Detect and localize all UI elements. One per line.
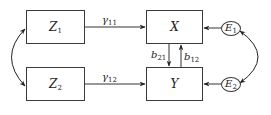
node-y: Y: [146, 67, 203, 101]
covariance-e1-e2: [240, 31, 258, 83]
node-x-label: X: [170, 20, 179, 34]
node-z2-label: Z2: [49, 77, 62, 92]
node-e2-label: E2: [225, 78, 237, 91]
node-y-label: Y: [171, 77, 179, 91]
label-gamma-12: γ12: [102, 72, 117, 84]
node-z2: Z2: [26, 67, 85, 101]
node-z1-label: Z1: [49, 20, 62, 35]
node-e1: E1: [221, 21, 241, 36]
covariance-z1-z2: [12, 29, 26, 86]
node-z1: Z1: [26, 10, 85, 44]
label-b-12: b12: [184, 52, 199, 64]
label-b-21: b21: [151, 50, 166, 62]
path-diagram: Z1 Z2 X Y E1 E2 γ11 γ12 b21 b12: [0, 0, 271, 115]
label-gamma-11: γ11: [102, 15, 117, 27]
node-x: X: [146, 10, 203, 44]
node-e2: E2: [221, 77, 241, 92]
node-e1-label: E1: [225, 22, 237, 35]
